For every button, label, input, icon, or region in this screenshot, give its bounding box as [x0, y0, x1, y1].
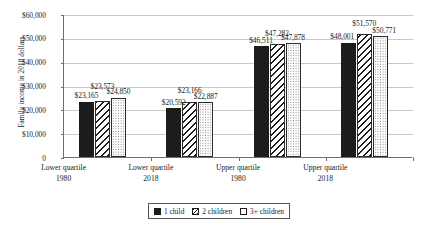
legend-swatch-icon	[192, 208, 199, 215]
bar-1child[interactable]	[341, 43, 356, 157]
x-axis-label-line1: Upper quartile	[277, 163, 373, 174]
bar-group: $20,592 $23,166 $22,887	[151, 14, 238, 157]
plot-area: $60,000 $50,000 $40,000 $30,000 $20,000 …	[63, 15, 412, 158]
x-axis-label-lower-1980: Lower quartile 1980	[16, 163, 112, 184]
bar-group: $46,511 $47,282 $47,878	[239, 14, 326, 157]
bar-group: $23,165 $23,573 $24,850	[64, 14, 151, 157]
bar-2children[interactable]	[357, 34, 372, 157]
bar-value-label: $22,887	[186, 93, 226, 100]
bar-3children[interactable]	[111, 98, 126, 157]
x-axis-label-line2: 2018	[277, 174, 373, 185]
bar-1child[interactable]	[79, 102, 94, 157]
y-tick-mark-0	[61, 158, 65, 159]
y-tick-label-20000: $20,000	[0, 107, 46, 114]
bar-3children[interactable]	[373, 36, 388, 157]
y-tick-label-60000: $60,000	[0, 12, 46, 19]
bar-2children[interactable]	[270, 44, 285, 157]
legend-label: 2 children	[202, 207, 232, 216]
bar-value-label: $48,001	[322, 33, 362, 40]
bar-2children[interactable]	[182, 102, 197, 157]
y-tick-label-10000: $10,000	[0, 131, 46, 138]
legend-swatch-icon	[154, 208, 161, 215]
bar-3children[interactable]	[286, 43, 301, 157]
x-axis-label-line1: Upper quartile	[190, 163, 286, 174]
bar-3children[interactable]	[198, 102, 213, 157]
y-tick-label-50000: $50,000	[0, 35, 46, 42]
legend-label: 3+ children	[250, 207, 284, 216]
bar-1child[interactable]	[166, 108, 181, 157]
y-tick-label-40000: $40,000	[0, 59, 46, 66]
y-tick-label-0: 0	[0, 155, 46, 162]
y-tick-label-30000: $30,000	[0, 83, 46, 90]
x-axis-label-upper-1980: Upper quartile 1980	[190, 163, 286, 184]
x-axis-label-line1: Lower quartile	[16, 163, 112, 174]
legend-label: 1 child	[164, 207, 184, 216]
bar-2children[interactable]	[95, 101, 110, 157]
x-axis-label-upper-2018: Upper quartile 2018	[277, 163, 373, 184]
legend-item-2-children[interactable]: 2 children	[192, 207, 232, 216]
x-axis-label-line1: Lower quartile	[103, 163, 199, 174]
bar-chart: Family income in 2018 dollars $60,000 $5…	[0, 0, 424, 233]
x-axis-label-line2: 1980	[190, 174, 286, 185]
legend-swatch-icon	[240, 208, 247, 215]
bar-value-label: $47,878	[273, 34, 313, 41]
x-axis-separator	[413, 157, 414, 161]
x-axis-label-line2: 2018	[103, 174, 199, 185]
legend-item-3-plus-children[interactable]: 3+ children	[240, 207, 284, 216]
x-axis-separator	[151, 157, 152, 161]
x-axis-separator	[239, 157, 240, 161]
bar-1child[interactable]	[254, 46, 269, 157]
bar-group: $48,001 $51,570 $50,771	[326, 14, 413, 157]
x-axis-label-lower-2018: Lower quartile 2018	[103, 163, 199, 184]
legend-item-1-child[interactable]: 1 child	[154, 207, 184, 216]
x-axis-separator	[326, 157, 327, 161]
x-axis-label-line2: 1980	[16, 174, 112, 185]
chart-legend: 1 child 2 children 3+ children	[148, 203, 290, 219]
bar-value-label: $24,850	[99, 88, 139, 95]
bar-value-label: $50,771	[364, 27, 404, 34]
